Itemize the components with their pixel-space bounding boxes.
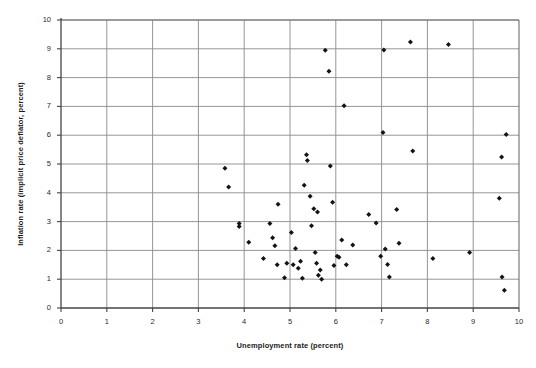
- data-point: [330, 200, 335, 205]
- y-tick-label: 1: [35, 274, 51, 283]
- x-tick-label: 6: [327, 317, 345, 326]
- data-point: [296, 266, 301, 271]
- y-tick-label: 6: [35, 130, 51, 139]
- data-point: [504, 132, 509, 137]
- data-point: [500, 274, 505, 279]
- data-point: [430, 256, 435, 261]
- data-point: [366, 212, 371, 217]
- x-tick-label: 0: [52, 317, 70, 326]
- y-tick-label: 3: [35, 217, 51, 226]
- scatter-plot-figure: Inflation rate (implicit price deflator,…: [0, 0, 536, 368]
- data-point: [304, 152, 309, 157]
- data-point: [284, 261, 289, 266]
- data-point: [291, 262, 296, 267]
- data-point: [499, 155, 504, 160]
- data-point: [261, 256, 266, 261]
- data-point: [319, 277, 324, 282]
- data-point: [246, 240, 251, 245]
- data-point: [309, 223, 314, 228]
- data-point: [272, 243, 277, 248]
- x-axis-title: Unemployment rate (percent): [61, 340, 519, 352]
- x-tick-label: 4: [235, 317, 253, 326]
- y-tick-label: 7: [35, 101, 51, 110]
- y-tick-label: 10: [35, 15, 51, 24]
- y-axis-title: Inflation rate (implicit price deflator,…: [14, 20, 28, 308]
- data-point: [222, 166, 227, 171]
- data-point: [315, 210, 320, 215]
- data-point: [397, 241, 402, 246]
- data-point: [237, 224, 242, 229]
- data-point: [339, 238, 344, 243]
- data-point: [314, 261, 319, 266]
- plot-canvas: [0, 0, 536, 368]
- y-tick-label: 8: [35, 73, 51, 82]
- y-tick-label: 2: [35, 245, 51, 254]
- data-point: [381, 47, 386, 52]
- data-point: [298, 259, 303, 264]
- y-tick-label: 4: [35, 188, 51, 197]
- data-point: [276, 202, 281, 207]
- data-point: [378, 254, 383, 259]
- x-tick-label: 7: [373, 317, 391, 326]
- data-point: [350, 242, 355, 247]
- data-point: [275, 262, 280, 267]
- data-point: [387, 274, 392, 279]
- data-point: [300, 276, 305, 281]
- x-tick-label: 2: [144, 317, 162, 326]
- y-tick-label: 0: [35, 303, 51, 312]
- data-point: [410, 149, 415, 154]
- data-point: [308, 194, 313, 199]
- data-point: [502, 288, 507, 293]
- x-tick-label: 5: [281, 317, 299, 326]
- x-tick-label: 8: [418, 317, 436, 326]
- data-point: [344, 262, 349, 267]
- y-tick-label: 5: [35, 159, 51, 168]
- x-tick-label: 3: [189, 317, 207, 326]
- data-point: [394, 207, 399, 212]
- data-point: [326, 69, 331, 74]
- data-point: [385, 262, 390, 267]
- data-point: [302, 183, 307, 188]
- x-tick-label: 10: [510, 317, 528, 326]
- data-point: [270, 235, 275, 240]
- data-point: [318, 267, 323, 272]
- y-tick-label: 9: [35, 44, 51, 53]
- data-point: [226, 185, 231, 190]
- data-point: [446, 42, 451, 47]
- data-point: [311, 206, 316, 211]
- data-point: [305, 158, 310, 163]
- data-point: [342, 103, 347, 108]
- x-tick-label: 9: [464, 317, 482, 326]
- data-point: [497, 196, 502, 201]
- x-tick-label: 1: [98, 317, 116, 326]
- gridlines: [61, 20, 519, 308]
- data-point: [316, 273, 321, 278]
- tick-marks: [57, 20, 519, 312]
- data-point: [408, 39, 413, 44]
